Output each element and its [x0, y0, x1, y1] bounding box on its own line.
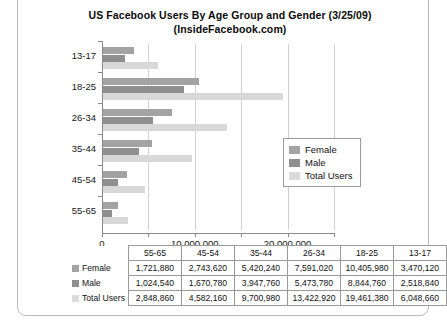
table-cell: 9,700,980 [234, 291, 287, 306]
grid-line [148, 44, 149, 230]
grid-line [288, 44, 289, 230]
chart-subtitle: (InsideFacebook.com) [40, 22, 420, 36]
chart-title-line1: US Facebook Users By Age Group and Gende… [88, 9, 371, 21]
legend-swatch-icon [289, 159, 300, 167]
x-tick-mark [195, 233, 196, 237]
table-cell: 10,405,980 [340, 261, 393, 276]
table-cell: 3,470,120 [393, 261, 446, 276]
grid-line [241, 44, 242, 230]
bar-male-35-44 [102, 148, 139, 155]
bar-female-13-17 [102, 47, 134, 54]
bar-female-35-44 [102, 140, 152, 147]
table-cell: 7,591,020 [287, 261, 340, 276]
legend-label: Female [305, 144, 337, 155]
table-cell: 1,721,880 [128, 261, 181, 276]
table-row-label: Total Users [82, 293, 125, 303]
bar-total-users-45-54 [102, 186, 145, 193]
table-cell: 4,582,160 [181, 291, 234, 306]
bar-total-users-35-44 [102, 155, 192, 162]
chart-legend: FemaleMaleTotal Users [283, 138, 361, 187]
table-cell: 5,473,780 [287, 276, 340, 291]
bar-female-55-65 [102, 202, 118, 209]
legend-item-female: Female [289, 143, 353, 156]
table-cell: 3,947,760 [234, 276, 287, 291]
data-table: 55-6545-5435-4426-3418-2513-17 Female1,7… [71, 245, 447, 306]
grid-line [334, 44, 335, 230]
x-tick-mark [148, 233, 149, 237]
table-row-header-female: Female [71, 261, 128, 276]
y-tick-mark [98, 196, 102, 197]
y-tick-mark [98, 165, 102, 166]
x-tick-mark [334, 233, 335, 237]
bar-total-users-18-25 [102, 93, 283, 100]
table-corner-cell [71, 246, 128, 261]
bar-female-26-34 [102, 109, 172, 116]
table-row: Total Users2,848,8604,582,1609,700,98013… [71, 291, 446, 306]
bar-female-45-54 [102, 171, 127, 178]
table-cell: 1,024,540 [128, 276, 181, 291]
bar-total-users-13-17 [102, 62, 158, 69]
grid-line [195, 44, 196, 230]
legend-label: Male [305, 157, 326, 168]
table-cell: 2,848,860 [128, 291, 181, 306]
table-cell: 2,518,840 [393, 276, 446, 291]
legend-swatch-icon [289, 146, 300, 154]
bar-total-users-55-65 [102, 217, 128, 224]
table-cell: 13,422,920 [287, 291, 340, 306]
table-row-header-total-users: Total Users [71, 291, 128, 306]
table-column-header-13-17: 13-17 [393, 246, 446, 261]
table-cell: 5,420,240 [234, 261, 287, 276]
table-row-swatch-icon [72, 265, 79, 272]
table-cell: 6,048,660 [393, 291, 446, 306]
table-cell: 2,743,620 [181, 261, 234, 276]
table-row: Male1,024,5401,670,7803,947,7605,473,780… [71, 276, 446, 291]
table-row-label: Female [82, 263, 111, 273]
x-tick-mark [241, 233, 242, 237]
plot-area [0, 41, 436, 241]
table-cell: 19,461,380 [340, 291, 393, 306]
table-row-header-male: Male [71, 276, 128, 291]
table-column-header-18-25: 18-25 [340, 246, 393, 261]
table-column-header-45-54: 45-54 [181, 246, 234, 261]
bar-male-26-34 [102, 117, 153, 124]
x-tick-mark [102, 233, 103, 237]
bar-male-18-25 [102, 86, 184, 93]
bar-total-users-26-34 [102, 124, 227, 131]
y-tick-mark [98, 72, 102, 73]
table-header-row: 55-6545-5435-4426-3418-2513-17 [71, 246, 446, 261]
bars-container [102, 44, 334, 230]
bar-male-55-65 [102, 210, 112, 217]
table-row-label: Male [82, 278, 101, 288]
y-tick-mark [98, 41, 102, 42]
table-column-header-35-44: 35-44 [234, 246, 287, 261]
chart-title: US Facebook Users By Age Group and Gende… [40, 8, 420, 36]
bar-male-45-54 [102, 179, 118, 186]
table-cell: 1,670,780 [181, 276, 234, 291]
x-tick-mark [288, 233, 289, 237]
y-axis-line [102, 41, 103, 233]
legend-swatch-icon [289, 172, 300, 180]
table-row-swatch-icon [72, 280, 79, 287]
table-column-header-26-34: 26-34 [287, 246, 340, 261]
bar-female-18-25 [102, 78, 199, 85]
table-row: Female1,721,8802,743,6205,420,2407,591,0… [71, 261, 446, 276]
table-row-swatch-icon [72, 295, 79, 302]
table-column-header-55-65: 55-65 [128, 246, 181, 261]
table-cell: 8,844,760 [340, 276, 393, 291]
legend-label: Total Users [305, 170, 353, 181]
y-tick-mark [98, 103, 102, 104]
y-tick-mark [98, 134, 102, 135]
x-axis-line [102, 233, 335, 234]
legend-item-total-users: Total Users [289, 169, 353, 182]
legend-item-male: Male [289, 156, 353, 169]
bar-male-13-17 [102, 55, 125, 62]
